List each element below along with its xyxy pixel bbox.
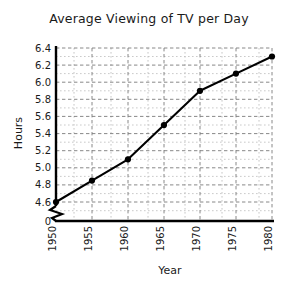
data-point — [125, 156, 131, 162]
y-tick-label: 5.6 — [35, 111, 51, 122]
x-tick-label: 1955 — [83, 226, 94, 251]
y-axis-tick-labels: 6.4 6.2 6.0 5.8 5.6 5.4 5.2 5.0 4.8 4.6 … — [35, 43, 51, 227]
y-tick-label: 5.4 — [35, 128, 51, 139]
x-tick-label: 1965 — [155, 226, 166, 251]
y-tick-label: 6.4 — [35, 43, 51, 54]
x-tick-label: 1950 — [47, 226, 58, 251]
y-tick-label: 5.8 — [35, 94, 51, 105]
x-axis-title: Year — [157, 264, 182, 277]
y-tick-label: 4.8 — [35, 179, 51, 190]
y-tick-label: 5.0 — [35, 162, 51, 173]
y-tick-label: 6.0 — [35, 77, 51, 88]
y-tick-label: 4.6 — [35, 197, 51, 208]
x-tick-label: 1975 — [227, 226, 238, 251]
data-point — [269, 53, 275, 59]
y-origin-label: 0 — [45, 216, 51, 227]
x-tick-label: 1970 — [191, 226, 202, 251]
x-tick-label: 1980 — [263, 226, 274, 251]
y-tick-label: 6.2 — [35, 60, 51, 71]
data-point — [233, 71, 239, 77]
chart-figure: Average Viewing of TV per Day — [0, 0, 298, 283]
x-axis-tick-labels: 1950 1955 1960 1965 1970 1975 1980 — [47, 226, 274, 251]
y-axis-title: Hours — [12, 117, 25, 149]
y-axis-break-icon — [50, 206, 62, 221]
data-point — [161, 122, 167, 128]
data-point — [89, 178, 95, 184]
x-tick-label: 1960 — [119, 226, 130, 251]
data-point — [197, 88, 203, 94]
y-tick-label: 5.2 — [35, 145, 51, 156]
line-chart-plot: 6.4 6.2 6.0 5.8 5.6 5.4 5.2 5.0 4.8 4.6 … — [0, 0, 298, 283]
